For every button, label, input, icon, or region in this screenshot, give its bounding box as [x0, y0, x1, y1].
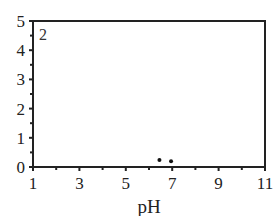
data-point	[169, 159, 173, 163]
x-tick-label: 5	[122, 174, 131, 193]
x-tick-label: 7	[168, 174, 177, 193]
y-tick-label: 4	[17, 41, 26, 60]
y-tick-label: 1	[17, 129, 26, 148]
x-tick-label: 9	[214, 174, 223, 193]
panel-label: 2	[39, 26, 47, 43]
x-axis-title: pH	[137, 196, 161, 216]
y-tick-label: 2	[17, 100, 26, 119]
y-tick-label: 0	[17, 158, 26, 177]
plot-border	[33, 21, 265, 167]
data-points	[157, 158, 173, 163]
x-tick-label: 1	[29, 174, 38, 193]
data-point	[157, 158, 161, 162]
y-tick-label: 5	[17, 12, 26, 31]
x-tick-label: 3	[75, 174, 84, 193]
x-axis: 1357911	[29, 167, 273, 193]
scatter-chart: 012345 1357911 2 pH	[0, 0, 276, 216]
plot-frame	[33, 21, 265, 167]
y-axis: 012345	[17, 12, 34, 177]
y-tick-label: 3	[17, 70, 26, 89]
x-tick-label: 11	[257, 174, 273, 193]
